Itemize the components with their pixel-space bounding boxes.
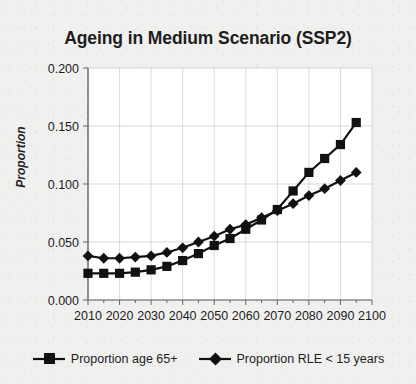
data-point-square bbox=[162, 262, 171, 271]
x-tick-label: 2070 bbox=[263, 309, 291, 323]
plot-area: 0.0000.0500.1000.1500.200201020202030204… bbox=[0, 0, 416, 384]
y-tick-label: 0.100 bbox=[48, 178, 79, 192]
data-point-square bbox=[115, 269, 124, 278]
data-point-square bbox=[194, 249, 203, 258]
data-point-square bbox=[83, 269, 92, 278]
legend-label-rle: Proportion RLE < 15 years bbox=[237, 352, 385, 366]
legend-diamond-marker-icon bbox=[198, 352, 232, 366]
chart-figure: Ageing in Medium Scenario (SSP2) Proport… bbox=[0, 0, 416, 384]
data-point-square bbox=[320, 154, 329, 163]
data-point-square bbox=[289, 186, 298, 195]
x-tick-label: 2060 bbox=[232, 309, 260, 323]
data-point-square bbox=[336, 140, 345, 149]
data-point-square bbox=[99, 269, 108, 278]
legend-square-marker-icon bbox=[32, 352, 66, 366]
y-tick-label: 0.200 bbox=[48, 62, 79, 76]
x-tick-label: 2090 bbox=[327, 309, 355, 323]
legend-label-age65: Proportion age 65+ bbox=[71, 352, 178, 366]
data-point-square bbox=[178, 256, 187, 265]
x-tick-label: 2030 bbox=[137, 309, 165, 323]
x-tick-label: 2010 bbox=[74, 309, 102, 323]
legend-entry-age65[interactable]: Proportion age 65+ bbox=[32, 352, 178, 366]
x-tick-label: 2050 bbox=[200, 309, 228, 323]
data-point-square bbox=[304, 168, 313, 177]
y-tick-label: 0.000 bbox=[48, 294, 79, 308]
data-point-square bbox=[352, 118, 361, 127]
data-point-square bbox=[131, 268, 140, 277]
data-point-square bbox=[210, 241, 219, 250]
data-point-square bbox=[225, 234, 234, 243]
y-tick-label: 0.050 bbox=[48, 236, 79, 250]
data-point-square bbox=[147, 265, 156, 274]
x-tick-label: 2080 bbox=[295, 309, 323, 323]
y-tick-label: 0.150 bbox=[48, 120, 79, 134]
x-tick-label: 2100 bbox=[358, 309, 386, 323]
chart-legend: Proportion age 65+ Proportion RLE < 15 y… bbox=[0, 352, 416, 366]
x-tick-label: 2020 bbox=[106, 309, 134, 323]
legend-entry-rle[interactable]: Proportion RLE < 15 years bbox=[198, 352, 385, 366]
x-tick-label: 2040 bbox=[169, 309, 197, 323]
